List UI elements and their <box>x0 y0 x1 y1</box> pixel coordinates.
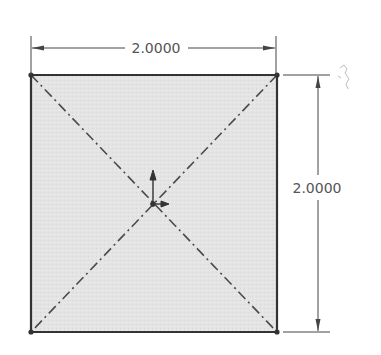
vertical-dimension[interactable] <box>283 75 330 332</box>
sketch-canvas[interactable]: 2.0000 2.0000 <box>0 0 381 355</box>
vertical-dimension-label[interactable]: 2.0000 <box>293 180 342 196</box>
sketch-cursor-icon <box>338 65 349 89</box>
horizontal-dimension-label[interactable]: 2.0000 <box>132 40 181 56</box>
